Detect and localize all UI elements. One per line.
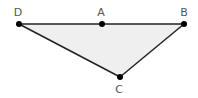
triangle-diagram: D A B C (0, 0, 198, 98)
label-a: A (97, 6, 105, 19)
point-c (117, 74, 123, 80)
point-a (99, 21, 105, 27)
label-c: C (115, 83, 123, 96)
point-d (16, 21, 22, 27)
triangle-fill (19, 24, 184, 77)
label-d: D (14, 6, 22, 19)
label-b: B (180, 6, 188, 19)
point-b (181, 21, 187, 27)
